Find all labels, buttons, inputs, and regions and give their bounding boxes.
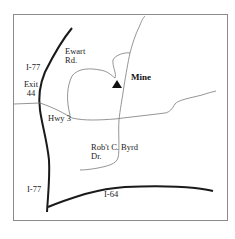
map: Ewart Rd. I-77 Exit 44 Hwy 3 Mine Rob't … [0,0,235,239]
label-ewart-line2: Rd. [65,56,85,65]
label-byrd-line2: Dr. [91,152,138,161]
road-hwy3 [14,91,216,120]
label-i77-top: I-77 [26,63,40,72]
label-exit-line2: 44 [21,89,41,98]
label-exit-44: Exit 44 [21,80,41,98]
road-ewart [68,16,145,115]
triangle-icon [112,80,122,88]
label-ewart-rd: Ewart Rd. [65,47,85,65]
label-hwy3: Hwy 3 [48,114,71,123]
label-mine: Mine [131,73,151,82]
road-i64 [48,186,213,207]
map-canvas [0,0,235,239]
label-i64: I-64 [104,190,118,199]
map-frame [14,15,228,221]
label-byrd-dr: Rob't C. Byrd Dr. [91,143,138,161]
label-i77-bottom: I-77 [27,185,41,194]
